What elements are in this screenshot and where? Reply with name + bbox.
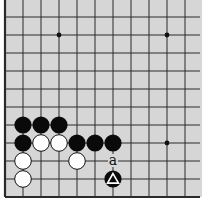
black-stone — [14, 116, 31, 133]
white-stone — [15, 153, 32, 170]
star-point-icon — [165, 33, 170, 38]
white-stone — [33, 135, 50, 152]
go-board-svg: a — [0, 0, 202, 205]
board-surface — [5, 0, 202, 197]
white-stone — [69, 153, 86, 170]
star-point-icon — [57, 33, 62, 38]
go-board-diagram: a — [0, 0, 202, 205]
black-stone — [68, 134, 85, 151]
white-stone — [51, 135, 68, 152]
black-stone — [86, 134, 103, 151]
black-stone — [104, 134, 121, 151]
point-label: a — [109, 152, 117, 168]
black-stone — [50, 116, 67, 133]
white-stone — [15, 171, 32, 188]
black-stone — [32, 116, 49, 133]
star-point-icon — [165, 141, 170, 146]
black-stone — [14, 134, 31, 151]
